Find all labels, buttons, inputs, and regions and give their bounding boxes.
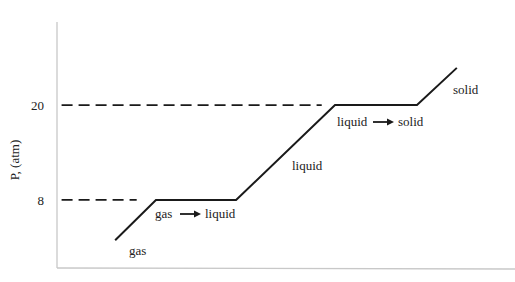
label-liquid: liquid bbox=[292, 158, 323, 173]
arrow-right-icon bbox=[373, 119, 394, 126]
arrow-right-icon bbox=[180, 211, 201, 218]
label-solid: solid bbox=[453, 82, 479, 97]
x-axis bbox=[57, 268, 515, 269]
label-gas-to-liquid-to: liquid bbox=[205, 206, 236, 221]
label-liquid-to-solid-to: solid bbox=[398, 114, 424, 129]
label-liquid-to-solid-from: liquid bbox=[337, 114, 368, 129]
label-gas: gas bbox=[129, 243, 146, 258]
y-tick-label-8: 8 bbox=[38, 193, 45, 208]
phase-chart: P, (atm) 20 8 gas gas liquid liquid liqu… bbox=[0, 0, 515, 282]
label-gas-to-liquid-from: gas bbox=[155, 206, 172, 221]
curve-segment-1 bbox=[115, 200, 156, 240]
curve-segment-5 bbox=[417, 68, 457, 105]
curve-segment-3 bbox=[236, 105, 335, 200]
label-gas-to-liquid: gas liquid bbox=[155, 206, 236, 221]
label-liquid-to-solid: liquid solid bbox=[337, 114, 424, 129]
y-tick-label-20: 20 bbox=[31, 98, 44, 113]
y-axis-label: P, (atm) bbox=[7, 140, 22, 180]
